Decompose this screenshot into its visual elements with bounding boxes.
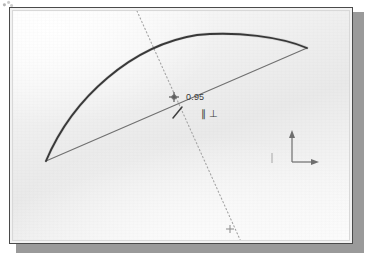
cad-viewport-inner[interactable]: 0.95 ∥ ⊥ bbox=[12, 10, 350, 241]
chord-line[interactable] bbox=[46, 48, 307, 161]
screenshot-root: 0.95 ∥ ⊥ bbox=[0, 0, 368, 257]
cad-viewport-frame[interactable]: 0.95 ∥ ⊥ bbox=[9, 7, 353, 244]
axis-indicator bbox=[272, 130, 319, 165]
sketch-canvas[interactable] bbox=[13, 11, 350, 241]
x-axis-arrow-icon bbox=[311, 159, 319, 165]
parallel-constraint-symbol[interactable]: ∥ bbox=[201, 108, 206, 119]
construction-endpoint-marker[interactable] bbox=[226, 225, 234, 233]
perpendicular-constraint-symbol[interactable]: ⊥ bbox=[209, 108, 218, 119]
y-axis-arrow-icon bbox=[289, 130, 295, 138]
intersection-point-marker[interactable] bbox=[169, 92, 179, 102]
witness-tick bbox=[173, 107, 182, 118]
construction-line[interactable] bbox=[137, 11, 242, 241]
dimension-label[interactable]: 0.95 bbox=[186, 92, 204, 102]
